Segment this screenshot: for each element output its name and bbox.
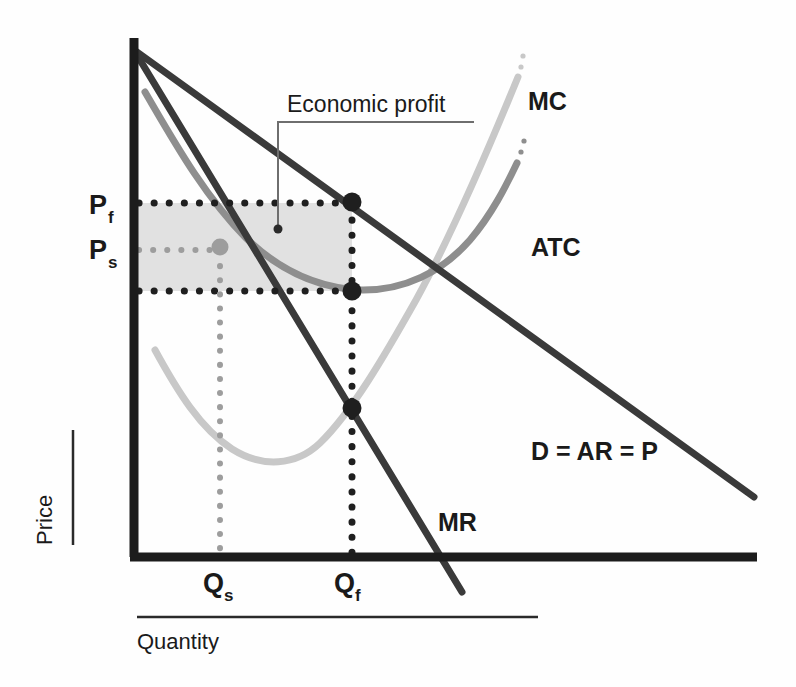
price-firm-tick-label: P — [89, 190, 107, 220]
quantity-socially-efficient-tick-subscript: s — [224, 586, 233, 605]
mc-continuation-dot — [520, 53, 525, 58]
mr-line — [137, 55, 462, 592]
point-price-firm — [343, 193, 362, 212]
atc-continuation-dot — [518, 149, 523, 154]
x-axis-title: Quantity — [137, 629, 219, 654]
atc-continuation-dot — [521, 138, 526, 143]
economic-profit-label: Economic profit — [287, 91, 446, 117]
mc-label: MC — [528, 87, 567, 115]
point-mr-equals-mc — [343, 399, 362, 418]
point-price-socially-efficient — [212, 239, 229, 256]
price-socially-efficient-tick-subscript: s — [108, 253, 117, 272]
price-firm-tick-subscript: f — [108, 208, 114, 227]
atc-label: ATC — [531, 233, 581, 261]
economic-profit-callout-target-dot — [274, 225, 283, 234]
price-socially-efficient-tick-label: P — [89, 235, 107, 265]
economic-profit-region — [137, 203, 352, 291]
demand-label: D = AR = P — [531, 437, 658, 465]
point-atc-at-qf — [343, 282, 362, 301]
mr-label: MR — [438, 508, 477, 536]
y-axis-title: Price — [32, 495, 57, 545]
quantity-firm-tick-label: Q — [334, 568, 355, 598]
economics-diagram-figure: Economic profit MC ATC D = AR = P MR P f… — [0, 0, 796, 687]
monopolistic-competition-chart: Economic profit MC ATC D = AR = P MR P f… — [0, 0, 796, 687]
mc-continuation-dot — [518, 64, 523, 69]
quantity-socially-efficient-tick-label: Q — [203, 568, 224, 598]
quantity-firm-tick-subscript: f — [355, 586, 361, 605]
